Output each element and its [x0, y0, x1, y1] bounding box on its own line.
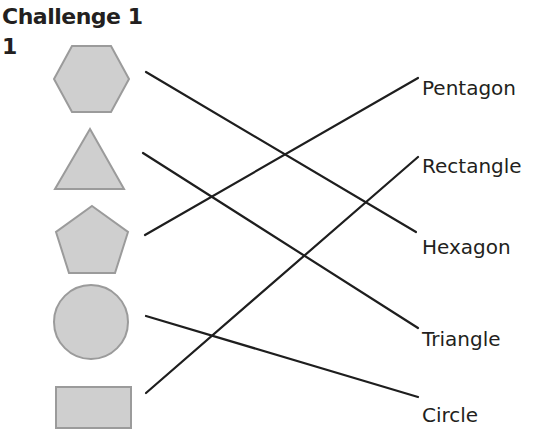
pentagon-shape [56, 206, 128, 273]
label-hexagon: Hexagon [422, 235, 511, 259]
line-hexagon-to-hexagon [146, 72, 416, 232]
label-pentagon: Pentagon [422, 76, 516, 100]
triangle-shape [55, 129, 124, 189]
matching-diagram [0, 0, 545, 440]
label-circle: Circle [422, 403, 478, 427]
circle-shape [54, 285, 128, 359]
label-triangle: Triangle [422, 327, 501, 351]
line-pentagon-to-pentagon [145, 78, 418, 235]
line-triangle-to-triangle [143, 153, 418, 328]
rectangle-shape [56, 387, 131, 428]
label-rectangle: Rectangle [422, 154, 522, 178]
hexagon-shape [54, 46, 129, 112]
